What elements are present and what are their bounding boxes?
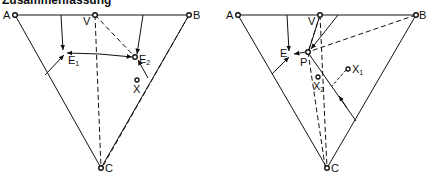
point-v — [93, 13, 98, 18]
dashed-v-e2 — [95, 15, 135, 57]
point-v — [318, 13, 323, 18]
label-a: A — [226, 9, 234, 21]
path-top-e — [287, 15, 289, 51]
right-diagram — [236, 13, 419, 171]
dashed-p-c — [308, 52, 325, 166]
label-p: P — [300, 56, 307, 68]
dashed-x1-line — [332, 70, 346, 86]
ternary-diagrams: A V B C E1 E2 X A V B C E — [0, 0, 427, 176]
dashed-b-p — [308, 15, 416, 52]
label-v: V — [83, 15, 91, 27]
label-e: E — [280, 47, 287, 59]
path-top-e1 — [61, 15, 63, 50]
label-c: C — [105, 162, 113, 174]
label-x1: X1 — [352, 63, 363, 76]
label-b: B — [193, 9, 200, 21]
point-b — [414, 13, 419, 18]
point-x2 — [316, 75, 320, 79]
label-b: B — [419, 9, 426, 21]
point-b — [187, 13, 192, 18]
right-labels: A V B C E P X1 X2 — [226, 9, 426, 174]
edge-bc — [327, 15, 416, 168]
path-ac-e — [272, 57, 289, 74]
path-e1-e2 — [67, 53, 132, 57]
label-a: A — [3, 9, 11, 21]
path-top-e2 — [137, 15, 143, 54]
edge-ac — [15, 15, 101, 168]
label-e2: E2 — [139, 53, 150, 66]
path-bc-p-arrow — [339, 96, 347, 108]
path-ac-e1 — [45, 55, 64, 75]
left-labels: A V B C E1 E2 X — [3, 9, 200, 174]
point-p — [306, 50, 311, 55]
point-c — [99, 166, 104, 171]
label-e1: E1 — [68, 54, 79, 67]
label-c: C — [331, 162, 339, 174]
label-v: V — [308, 15, 316, 27]
point-x1 — [346, 67, 350, 71]
left-diagram — [13, 13, 192, 171]
point-c — [325, 166, 330, 171]
path-p-e — [294, 52, 306, 54]
point-a — [236, 13, 241, 18]
point-x — [135, 78, 139, 82]
point-e2 — [133, 55, 138, 60]
point-a — [13, 13, 18, 18]
dashed-v-c — [95, 15, 101, 168]
label-x: X — [133, 83, 141, 95]
